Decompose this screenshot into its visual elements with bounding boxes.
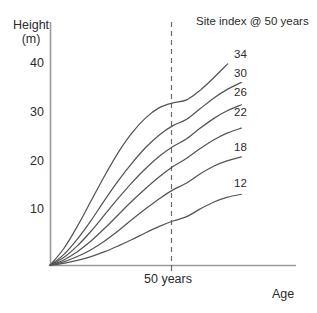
growth-curve-26 <box>50 105 241 266</box>
y-axis-title-line1: Height <box>13 18 49 32</box>
growth-curve-18 <box>50 157 241 266</box>
growth-curve-34 <box>50 64 228 265</box>
y-axis-title: Height (m) <box>8 18 54 46</box>
y-tick-label-20: 20 <box>8 154 44 168</box>
site-index-height-age-chart: Height (m) 40 30 20 10 Site index @ 50 y… <box>0 0 317 313</box>
x-axis-title: Age <box>272 287 294 301</box>
series-label-18: 18 <box>234 141 247 154</box>
series-label-34: 34 <box>234 48 247 61</box>
growth-curve-30 <box>50 82 241 265</box>
y-tick-label-10: 10 <box>8 202 44 216</box>
growth-curve-12 <box>50 194 241 265</box>
growth-curves-group <box>50 64 241 265</box>
y-tick-label-40: 40 <box>8 56 44 70</box>
y-tick-label-30: 30 <box>8 105 44 119</box>
series-label-22: 22 <box>234 106 247 119</box>
series-label-30: 30 <box>234 67 247 80</box>
series-label-12: 12 <box>234 177 247 190</box>
reference-line-label: 50 years <box>144 272 192 286</box>
axes-group <box>50 22 296 266</box>
chart-plot-area <box>0 0 317 313</box>
series-label-26: 26 <box>234 86 247 99</box>
legend-title: Site index @ 50 years <box>196 15 309 28</box>
y-axis-title-line2: (m) <box>22 32 41 46</box>
